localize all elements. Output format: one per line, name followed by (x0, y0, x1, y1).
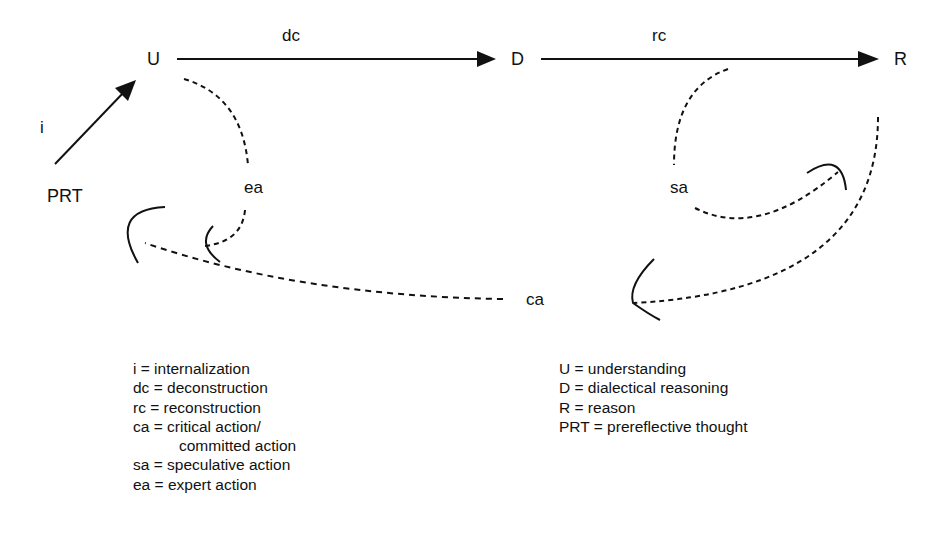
node-prt: PRT (47, 187, 83, 205)
legend-item-dc: dc = deconstruction (133, 378, 296, 397)
arrow-rc (541, 51, 879, 67)
node-u: U (147, 50, 160, 68)
edge-label-ca: ca (526, 291, 544, 308)
legend-item-sa: sa = speculative action (133, 455, 296, 474)
legend-item-rc: rc = reconstruction (133, 398, 296, 417)
legend-item-r: R = reason (559, 398, 748, 417)
edge-label-i: i (40, 119, 44, 136)
edge-label-sa: sa (670, 179, 688, 196)
legend-item-ca-continued: committed action (133, 436, 296, 455)
node-d: D (511, 50, 524, 68)
arrow-i (55, 80, 136, 164)
loop-sa (674, 69, 846, 218)
legend-item-u: U = understanding (559, 359, 748, 378)
loop-ea (184, 79, 248, 262)
legend-item-ea: ea = expert action (133, 475, 296, 494)
edge-label-dc: dc (282, 27, 300, 44)
loop-ca (128, 207, 503, 299)
legend-left: i = internalization dc = deconstruction … (133, 359, 296, 494)
edge-label-ea: ea (244, 179, 263, 196)
legend-right: U = understanding D = dialectical reason… (559, 359, 748, 436)
node-r: R (894, 50, 907, 68)
legend-item-ca: ca = critical action/ (133, 417, 296, 436)
legend-item-prt: PRT = prereflective thought (559, 417, 748, 436)
arrow-dc (177, 51, 496, 67)
legend-item-d: D = dialectical reasoning (559, 378, 748, 397)
edge-label-rc: rc (652, 27, 666, 44)
loop-ca-from-r (632, 117, 878, 320)
legend-item-i: i = internalization (133, 359, 296, 378)
